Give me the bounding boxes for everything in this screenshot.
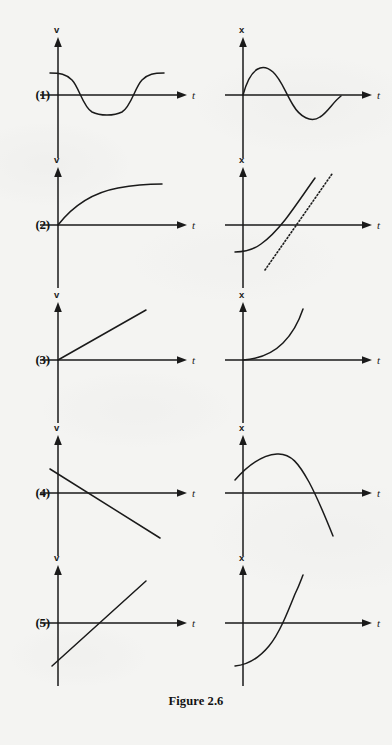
y-axis-arrow-icon bbox=[54, 167, 62, 177]
plot-row5-velocity-svg: v t bbox=[30, 558, 205, 688]
plot-row1-position: x t bbox=[215, 30, 390, 160]
x-axis-arrow-icon bbox=[177, 356, 187, 364]
x-axis-label: t bbox=[192, 354, 196, 366]
x-axis-arrow-icon bbox=[177, 91, 187, 99]
plot-row5-velocity: v t bbox=[30, 558, 205, 688]
figure-row-5: (5) v t x t bbox=[0, 558, 392, 688]
x-axis-label: t bbox=[377, 89, 381, 101]
plot-row3-position: x t bbox=[215, 295, 390, 425]
plot-row5-position-svg: x t bbox=[215, 558, 390, 688]
plot-row3-position-svg: x t bbox=[215, 295, 390, 425]
x-axis-label: t bbox=[377, 617, 381, 629]
y-axis-label: x bbox=[239, 154, 245, 165]
plot-row2-position: x t bbox=[215, 160, 390, 290]
x-axis-arrow-icon bbox=[362, 221, 372, 229]
plot-row3-velocity-svg: v t bbox=[30, 295, 205, 425]
plot-row1-velocity: v t bbox=[30, 30, 205, 160]
data-curve bbox=[50, 73, 164, 115]
plot-row4-position-svg: x t bbox=[215, 428, 390, 558]
x-axis-label: t bbox=[192, 487, 196, 499]
x-axis-arrow-icon bbox=[177, 489, 187, 497]
y-axis-label: x bbox=[239, 552, 245, 563]
y-axis-arrow-icon bbox=[54, 37, 62, 47]
data-curve bbox=[235, 454, 333, 536]
figure-row-2: (2) v t x t bbox=[0, 160, 392, 290]
y-axis-label: v bbox=[54, 154, 60, 165]
x-axis-arrow-icon bbox=[362, 619, 372, 627]
data-curve bbox=[243, 309, 303, 360]
x-axis-arrow-icon bbox=[177, 619, 187, 627]
x-axis-arrow-icon bbox=[362, 489, 372, 497]
y-axis-arrow-icon bbox=[54, 565, 62, 575]
x-axis-label: t bbox=[192, 219, 196, 231]
plot-row2-velocity: v t bbox=[30, 160, 205, 290]
x-axis-label: t bbox=[377, 219, 381, 231]
y-axis-arrow-icon bbox=[239, 37, 247, 47]
figure-2-6: (1) v t x t (2 bbox=[0, 0, 392, 745]
y-axis-arrow-icon bbox=[239, 302, 247, 312]
plot-row4-velocity-svg: v t bbox=[30, 428, 205, 558]
x-axis-label: t bbox=[377, 487, 381, 499]
x-axis-label: t bbox=[192, 89, 196, 101]
y-axis-arrow-icon bbox=[239, 565, 247, 575]
x-axis-arrow-icon bbox=[177, 221, 187, 229]
y-axis-label: x bbox=[239, 24, 245, 35]
y-axis-label: v bbox=[54, 24, 60, 35]
plot-row1-position-svg: x t bbox=[215, 30, 390, 160]
x-axis-label: t bbox=[192, 617, 196, 629]
x-axis-arrow-icon bbox=[362, 356, 372, 364]
y-axis-arrow-icon bbox=[239, 435, 247, 445]
plot-row4-velocity: v t bbox=[30, 428, 205, 558]
data-curve bbox=[58, 310, 146, 360]
plot-row1-velocity-svg: v t bbox=[30, 30, 205, 160]
y-axis-label: v bbox=[54, 289, 60, 300]
asymptote-line bbox=[265, 174, 332, 270]
plot-row2-position-svg: x t bbox=[215, 160, 390, 290]
y-axis-arrow-icon bbox=[239, 167, 247, 177]
data-curve bbox=[235, 575, 303, 666]
figure-caption: Figure 2.6 bbox=[0, 694, 392, 709]
data-curve bbox=[243, 68, 341, 120]
x-axis-label: t bbox=[377, 354, 381, 366]
x-axis-arrow-icon bbox=[362, 91, 372, 99]
plot-row5-position: x t bbox=[215, 558, 390, 688]
figure-row-1: (1) v t x t bbox=[0, 30, 392, 160]
figure-row-4: (4) v t x t bbox=[0, 428, 392, 558]
y-axis-arrow-icon bbox=[54, 435, 62, 445]
y-axis-label: v bbox=[54, 552, 60, 563]
data-curve bbox=[58, 184, 162, 225]
plot-row2-velocity-svg: v t bbox=[30, 160, 205, 290]
data-curve bbox=[50, 469, 160, 538]
y-axis-label: x bbox=[239, 289, 245, 300]
plot-row3-velocity: v t bbox=[30, 295, 205, 425]
y-axis-label: v bbox=[54, 422, 60, 433]
plot-row4-position: x t bbox=[215, 428, 390, 558]
y-axis-label: x bbox=[239, 422, 245, 433]
figure-row-3: (3) v t x t bbox=[0, 295, 392, 425]
y-axis-arrow-icon bbox=[54, 302, 62, 312]
